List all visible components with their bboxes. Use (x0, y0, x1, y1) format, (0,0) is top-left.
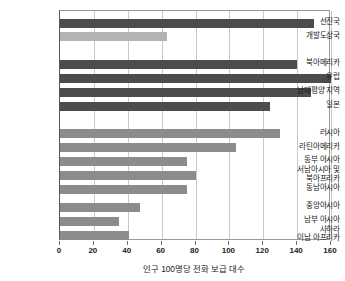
category-label: 러시아 (283, 129, 340, 137)
tick-label: 0 (44, 246, 74, 256)
bar (60, 129, 280, 138)
bar (60, 231, 129, 240)
tick-mark (296, 241, 297, 245)
bar (60, 32, 167, 41)
category-label: 동남아시아 (283, 184, 340, 192)
bar-fill (60, 157, 187, 166)
category-label: 동부 아시아 (283, 156, 340, 164)
tick-mark (195, 241, 196, 245)
bar-fill (60, 32, 167, 41)
category-label: 남부 아시아 (283, 216, 340, 224)
bar (60, 19, 314, 28)
bar (60, 185, 187, 194)
category-label: 중앙아시아 (283, 202, 340, 210)
tick-label: 160 (315, 246, 345, 256)
bar-fill (60, 217, 119, 226)
tick-label: 140 (281, 246, 311, 256)
category-label: 서남아시아 및 북아프리카 (283, 166, 340, 183)
tick-label: 120 (247, 246, 277, 256)
category-label: 북아메리카 (283, 59, 340, 67)
tick-label: 40 (112, 246, 142, 256)
bar-fill (60, 129, 280, 138)
bar (60, 171, 196, 180)
bar (60, 217, 119, 226)
bar-fill (60, 60, 297, 69)
tick-label: 80 (180, 246, 210, 256)
bar-fill (60, 88, 311, 97)
bar-fill (60, 231, 129, 240)
bar-fill (60, 203, 140, 212)
category-label: 선진국 (283, 18, 340, 26)
tick-mark (330, 241, 331, 245)
tick-mark (127, 241, 128, 245)
tick-label: 60 (146, 246, 176, 256)
bar (60, 60, 297, 69)
bar-fill (60, 143, 236, 152)
bar (60, 102, 270, 111)
tick-mark (161, 241, 162, 245)
category-label: 사하라 이남 아프리카 (283, 226, 340, 243)
bar-fill (60, 102, 270, 111)
category-label: 라틴아메리카 (283, 143, 340, 151)
tick-label: 100 (213, 246, 243, 256)
category-label: 개발도상국 (283, 32, 340, 40)
gridline (263, 11, 264, 239)
category-label: 남태평양 지역 (283, 87, 340, 95)
gridline (196, 11, 197, 239)
category-label: 일본 (283, 101, 340, 109)
bar-fill (60, 171, 196, 180)
tick-mark (262, 241, 263, 245)
bar (60, 157, 187, 166)
bar (60, 203, 140, 212)
bar-fill (60, 185, 187, 194)
bar (60, 88, 311, 97)
tick-mark (228, 241, 229, 245)
gridline (229, 11, 230, 239)
x-axis-title: 인구 100명당 전화 보급 대수 (0, 262, 340, 274)
x-axis-title-text: 인구 100명당 전화 보급 대수 (143, 264, 245, 274)
tick-mark (93, 241, 94, 245)
gridline (162, 11, 163, 239)
category-label: 유럽 (283, 73, 340, 81)
tick-label: 20 (78, 246, 108, 256)
bar (60, 143, 236, 152)
bar-fill (60, 19, 314, 28)
tick-mark (59, 241, 60, 245)
